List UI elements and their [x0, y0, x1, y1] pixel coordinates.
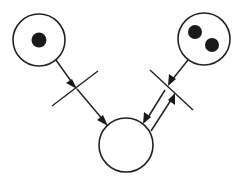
place-p3 — [99, 118, 153, 172]
arc-t2-p3 — [143, 90, 165, 124]
place-circle — [99, 118, 153, 172]
token — [32, 33, 47, 48]
arc-p1-t1 — [56, 60, 77, 89]
place-circle — [178, 13, 230, 65]
place-p2 — [178, 13, 230, 65]
arc-t1-p3 — [77, 89, 108, 126]
token — [188, 25, 202, 39]
token — [205, 38, 219, 52]
arc-p3-t2 — [151, 93, 175, 131]
petri-net-diagram — [0, 0, 244, 182]
arrowhead-icon — [66, 79, 77, 89]
transition-t1 — [52, 71, 98, 106]
arrowhead-icon — [97, 115, 108, 126]
arc-p2-t2 — [168, 60, 188, 86]
place-p1 — [13, 14, 65, 66]
